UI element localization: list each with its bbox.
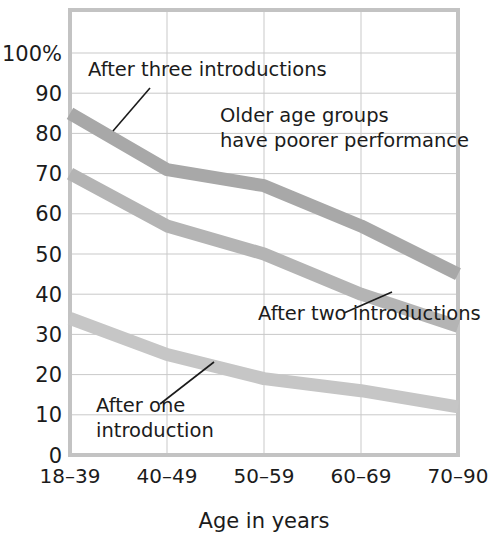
- y-tick-label: 80: [35, 122, 62, 146]
- annotation-line: have poorer performance: [220, 129, 469, 152]
- y-tick-label: 90: [35, 82, 62, 106]
- x-tick-label: 18–39: [40, 464, 101, 488]
- y-tick-label: 30: [35, 323, 62, 347]
- x-tick-label: 60–69: [331, 464, 392, 488]
- x-tick-label: 50–59: [234, 464, 295, 488]
- line-chart: 0102030405060708090100% 18–3940–4950–596…: [0, 0, 496, 548]
- y-tick-label: 70: [35, 162, 62, 186]
- x-tick-label: 70–90: [428, 464, 489, 488]
- y-tick-label: 40: [35, 283, 62, 307]
- annotation-line: After one: [96, 394, 185, 417]
- y-tick-label: 20: [35, 363, 62, 387]
- x-axis-title: Age in years: [199, 509, 330, 533]
- annotation-after-two: After two introductions: [258, 302, 481, 325]
- annotation-line: After two introductions: [258, 302, 481, 325]
- annotation-line: After three introductions: [88, 58, 327, 81]
- y-tick-label: 10: [35, 403, 62, 427]
- y-tick-label: 100%: [2, 42, 62, 66]
- annotation-line: introduction: [96, 419, 214, 442]
- y-tick-label: 50: [35, 243, 62, 267]
- annotation-line: Older age groups: [220, 104, 389, 127]
- annotation-after-three: After three introductions: [88, 58, 327, 81]
- x-tick-label: 40–49: [137, 464, 198, 488]
- y-tick-label: 60: [35, 202, 62, 226]
- chart-container: 0102030405060708090100% 18–3940–4950–596…: [0, 0, 496, 548]
